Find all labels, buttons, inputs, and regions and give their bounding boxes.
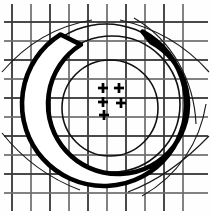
geometric-figure-svg [0,0,212,215]
figure-root [0,0,212,215]
